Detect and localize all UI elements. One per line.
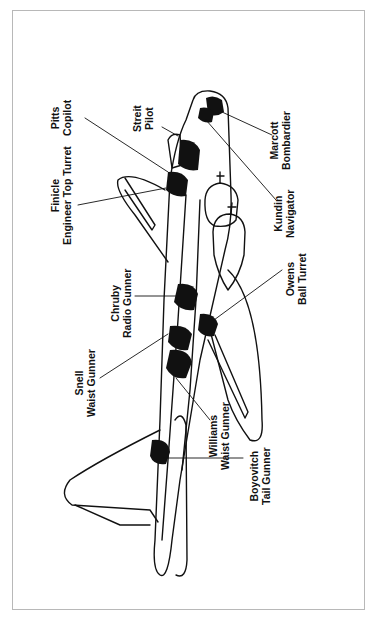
ball-turret-silhouette (198, 314, 218, 337)
crew-role: Radio Gunner (121, 269, 133, 338)
tail-gunner-silhouette (150, 440, 170, 465)
crew-name: Finicle (49, 146, 61, 245)
engine-inner-prop (217, 172, 224, 183)
crew-role: Copilot (61, 100, 73, 136)
pilot-silhouette (178, 140, 200, 171)
waist-gunner-snell-silhouette (168, 326, 192, 351)
crew-name: Snell (73, 349, 85, 417)
crew-role: Bombardier (280, 111, 292, 170)
crew-role: Waist Gunner (85, 349, 97, 417)
crew-name: Chruby (109, 269, 121, 338)
crew-name: Streit (131, 105, 143, 132)
label-boyovitch-tail-gunner: Boyovitch Tail Gunner (248, 447, 272, 505)
leader-finicle (78, 188, 166, 205)
label-kundin-navigator: Kundin Navigator (272, 190, 296, 238)
engine-inner (205, 183, 238, 226)
radio-gunner-silhouette (174, 284, 198, 311)
label-snell-waist-gunner: Snell Waist Gunner (73, 349, 97, 417)
crew-name: Marcott (268, 111, 280, 170)
crew-name: Williams (207, 402, 219, 470)
label-streit-pilot: Streit Pilot (131, 105, 155, 132)
label-chruby-radio-gunner: Chruby Radio Gunner (109, 269, 133, 338)
crew-name: Pitts (49, 100, 61, 136)
crew-role: Pilot (143, 105, 155, 132)
leader-streit (162, 127, 178, 136)
label-marcott-bombardier: Marcott Bombardier (268, 111, 292, 170)
leader-snell (100, 334, 168, 378)
crew-role: Ball Turret (296, 253, 308, 305)
b17-bomber-drawing (0, 0, 377, 619)
engine-outer-prop (228, 203, 236, 214)
crew-role: Engineer Top Turret (61, 146, 73, 245)
leader-owens (214, 270, 282, 320)
engineer-silhouette (166, 172, 188, 197)
crew-name: Boyovitch (248, 447, 260, 505)
leader-williams (176, 378, 210, 420)
waist-gunner-williams-silhouette (166, 350, 192, 379)
label-owens-ball-turret: Owens Ball Turret (284, 253, 308, 305)
label-pitts-copilot: Pitts Copilot (49, 100, 73, 136)
crew-name: Owens (284, 253, 296, 305)
label-williams-waist-gunner: Williams Waist Gunner (207, 402, 231, 470)
crew-name: Kundin (272, 190, 284, 238)
crew-role: Navigator (284, 190, 296, 238)
crew-role: Waist Gunner (219, 402, 231, 470)
crew-role: Tail Gunner (260, 447, 272, 505)
leader-pitts (85, 118, 168, 172)
vertical-stabilizer (64, 430, 160, 522)
label-finicle-engineer: Finicle Engineer Top Turret (49, 146, 73, 245)
